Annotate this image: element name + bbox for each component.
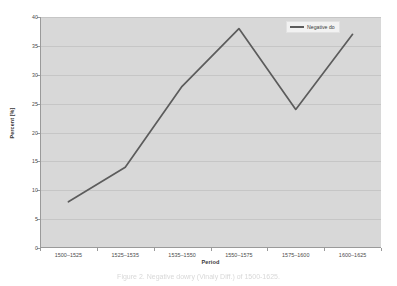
chart-plot-area: 4035302520151050 1500–15251525–15351535–…	[0, 0, 397, 268]
legend-label-negative-do: Negative do	[307, 24, 335, 30]
figure-container: 4035302520151050 1500–15251525–15351535–…	[0, 0, 397, 286]
legend-line-swatch-negative-do	[290, 26, 304, 28]
series-line-negative-do	[68, 29, 352, 202]
data-series-svg	[0, 0, 397, 268]
chart-legend[interactable]: Negative do	[286, 21, 340, 33]
figure-caption: Figure 2. Negative dowry (Vinaly Diff.) …	[0, 272, 397, 281]
